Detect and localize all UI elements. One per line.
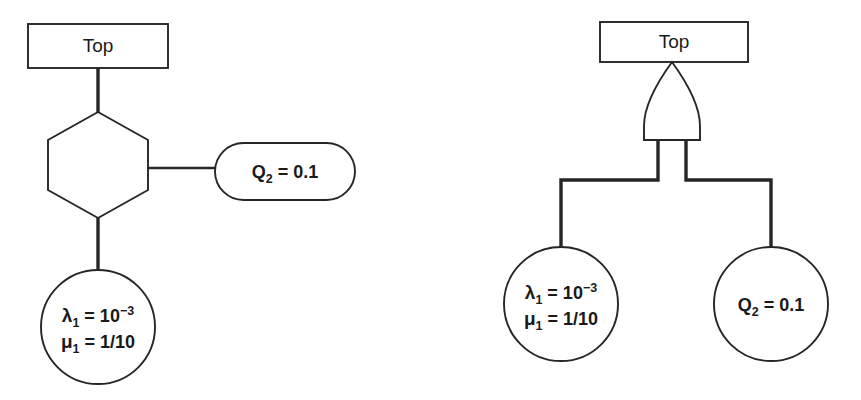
- mu-symbol-right: μ: [524, 308, 536, 329]
- lambda-symbol-left: λ: [62, 305, 73, 326]
- lambda-equals-right: = 10: [542, 283, 583, 303]
- mu-subscript-right: 1: [536, 319, 543, 333]
- figure-root: Top λ1 = 10−3 μ1 = 1/10 Q2 = 0.1: [0, 0, 861, 400]
- mu-symbol-left: μ: [61, 331, 73, 352]
- left-diagram: Top λ1 = 10−3 μ1 = 1/10 Q2 = 0.1: [28, 24, 355, 384]
- lambda-subscript-right: 1: [535, 293, 542, 307]
- lambda-superscript-left: −3: [120, 304, 134, 318]
- connector-gate-to-event-q2-right: [686, 140, 771, 247]
- lambda-superscript-right: −3: [583, 281, 597, 295]
- diagram-canvas: Top λ1 = 10−3 μ1 = 1/10 Q2 = 0.1: [0, 0, 861, 400]
- mu-equals-right: = 1/10: [543, 309, 599, 329]
- circle-event-lambda-left[interactable]: [41, 270, 155, 384]
- top-box-left-label: Top: [83, 35, 114, 56]
- lambda-equals-left: = 10: [79, 306, 120, 326]
- mu-subscript-left: 1: [73, 342, 80, 356]
- q2-equals-left: = 0.1: [273, 162, 319, 182]
- lambda-subscript-left: 1: [72, 316, 79, 330]
- and-gate-right[interactable]: [644, 62, 700, 140]
- hexagon-gate-left[interactable]: [48, 112, 148, 218]
- right-diagram: Top λ1 = 10−3 μ1 = 1/10 Q2 = 0.1: [504, 22, 828, 361]
- q2-symbol-right: Q: [738, 295, 752, 315]
- circle-event-lambda-right[interactable]: [504, 247, 618, 361]
- top-box-right-label: Top: [659, 31, 690, 52]
- mu-equals-left: = 1/10: [80, 332, 136, 352]
- q2-subscript-right: 2: [752, 305, 759, 319]
- connector-gate-to-event-lambda-right: [561, 140, 658, 247]
- q2-symbol-left: Q: [252, 162, 266, 182]
- q2-equals-right: = 0.1: [759, 295, 805, 315]
- lambda-symbol-right: λ: [525, 282, 536, 303]
- q2-subscript-left: 2: [266, 172, 273, 186]
